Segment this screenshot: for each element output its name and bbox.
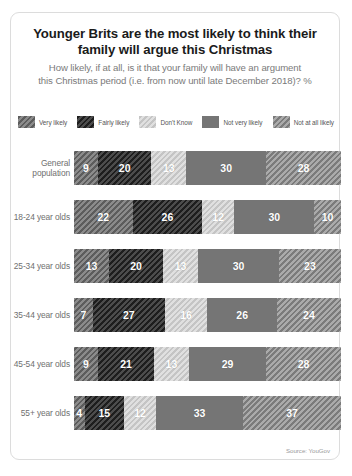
bar-segment-fairly-likely[interactable]: 21 [98, 347, 154, 381]
bar-segment-not-at-all-likely[interactable]: 28 [266, 151, 341, 185]
row-label-line-1: 55+ year olds [21, 408, 70, 418]
bar-segment-very-likely[interactable]: 7 [74, 298, 93, 332]
bar-segment-very-likely[interactable]: 9 [74, 151, 98, 185]
chart-title-line-1: Younger Brits are the most likely to thi… [33, 26, 317, 41]
row-label: 35-44 year olds [11, 310, 74, 320]
stacked-bar: 921132928 [74, 347, 341, 381]
source-attribution: Source: YouGov [286, 447, 330, 454]
bar-segment-not-very-likely[interactable]: 33 [156, 396, 243, 430]
bar-segment-fairly-likely[interactable]: 20 [98, 151, 151, 185]
legend-swatch-not-very-likely [202, 116, 219, 128]
row-label: 55+ year olds [11, 408, 74, 418]
row-label: Generalpopulation [11, 158, 74, 178]
legend-item-fairly-likely[interactable]: Fairly likely [77, 116, 129, 128]
legend-swatch-dont-know [139, 116, 156, 128]
row-label: 18-24 year olds [11, 212, 74, 222]
bar-segment-dont-know[interactable]: 12 [202, 200, 234, 234]
row-label-line-1: 18-24 year olds [14, 212, 70, 222]
bar-segment-not-at-all-likely[interactable]: 24 [277, 298, 341, 332]
bar-segment-not-at-all-likely[interactable]: 23 [279, 249, 341, 283]
bar-segment-not-very-likely[interactable]: 29 [189, 347, 266, 381]
bar-segment-not-at-all-likely[interactable]: 28 [266, 347, 341, 381]
row-label: 45-54 year olds [11, 359, 74, 369]
bar-segment-not-at-all-likely[interactable]: 37 [243, 396, 341, 430]
row-label-line-2: population [32, 168, 70, 178]
bar-segment-dont-know[interactable]: 12 [124, 396, 156, 430]
stacked-bar: 727162624 [74, 298, 341, 332]
bar-segment-very-likely[interactable]: 13 [74, 249, 109, 283]
bar-segment-dont-know[interactable]: 16 [165, 298, 208, 332]
chart-row: 45-54 year olds921132928 [11, 347, 341, 381]
bar-segment-not-very-likely[interactable]: 30 [186, 151, 266, 185]
chart-title-line-2: family will argue this Christmas [78, 42, 273, 57]
legend-label-very-likely: Very likely [39, 119, 67, 126]
legend-item-very-likely[interactable]: Very likely [18, 116, 67, 128]
bar-segment-very-likely[interactable]: 4 [74, 396, 85, 430]
legend-swatch-not-at-all-likely [273, 116, 290, 128]
row-label-line-1: General [41, 158, 70, 168]
bar-segment-very-likely[interactable]: 22 [74, 200, 133, 234]
chart-title: Younger Brits are the most likely to thi… [27, 26, 323, 57]
bar-segment-fairly-likely[interactable]: 20 [109, 249, 163, 283]
stacked-bar: 2226123010 [74, 200, 341, 234]
legend-swatch-very-likely [18, 116, 35, 128]
legend-label-not-very-likely: Not very likely [223, 119, 262, 126]
chart-subtitle-line-1: How likely, if at all, is it that your f… [49, 62, 301, 73]
row-label-line-1: 35-44 year olds [14, 310, 70, 320]
bar-segment-fairly-likely[interactable]: 26 [133, 200, 202, 234]
legend-item-not-at-all-likely[interactable]: Not at all likely [273, 116, 334, 128]
legend-label-not-at-all-likely: Not at all likely [294, 119, 334, 126]
chart-plot-area: Generalpopulation92013302818-24 year old… [11, 151, 341, 445]
chart-row: 35-44 year olds727162624 [11, 298, 341, 332]
chart-subtitle: How likely, if at all, is it that your f… [25, 62, 325, 87]
chart-legend: Very likelyFairly likelyDon't KnowNot ve… [18, 116, 334, 128]
chart-row: 55+ year olds415123337 [11, 396, 341, 430]
chart-row: Generalpopulation920133028 [11, 151, 341, 185]
row-label-line-1: 45-54 year olds [14, 359, 70, 369]
chart-row: 18-24 year olds2226123010 [11, 200, 341, 234]
bar-segment-dont-know[interactable]: 13 [151, 151, 186, 185]
chart-row: 25-34 year olds1320133023 [11, 249, 341, 283]
stacked-bar: 920133028 [74, 151, 341, 185]
row-label-line-1: 25-34 year olds [14, 261, 70, 271]
bar-segment-fairly-likely[interactable]: 15 [85, 396, 125, 430]
chart-card: Younger Brits are the most likely to thi… [10, 12, 340, 460]
stacked-bar: 415123337 [74, 396, 341, 430]
bar-segment-dont-know[interactable]: 13 [154, 347, 189, 381]
legend-item-dont-know[interactable]: Don't Know [139, 116, 192, 128]
bar-segment-not-at-all-likely[interactable]: 10 [314, 200, 341, 234]
stacked-bar: 1320133023 [74, 249, 341, 283]
legend-label-dont-know: Don't Know [160, 119, 192, 126]
bar-segment-dont-know[interactable]: 13 [163, 249, 198, 283]
legend-item-not-very-likely[interactable]: Not very likely [202, 116, 262, 128]
bar-segment-not-very-likely[interactable]: 26 [207, 298, 276, 332]
bar-segment-not-very-likely[interactable]: 30 [198, 249, 279, 283]
legend-label-fairly-likely: Fairly likely [98, 119, 129, 126]
bar-segment-very-likely[interactable]: 9 [74, 347, 98, 381]
row-label: 25-34 year olds [11, 261, 74, 271]
bar-segment-fairly-likely[interactable]: 27 [93, 298, 165, 332]
chart-subtitle-line-2: this Christmas period (i.e. from now unt… [38, 75, 311, 86]
bar-segment-not-very-likely[interactable]: 30 [234, 200, 314, 234]
legend-swatch-fairly-likely [77, 116, 94, 128]
